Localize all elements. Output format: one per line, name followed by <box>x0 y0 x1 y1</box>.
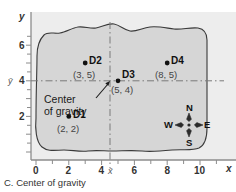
y-tick-label-4: 4 <box>19 76 25 86</box>
y-axis-ticks <box>26 36 31 152</box>
y-tick-label-6: 6 <box>19 41 25 51</box>
data-label-d3-coord: (5, 4) <box>111 85 133 95</box>
data-label-d2-name: D2 <box>89 56 102 66</box>
data-point-d2 <box>83 61 88 66</box>
data-label-d4-coord: (8, 5) <box>155 70 177 80</box>
figure-caption: C. Center of gravity <box>4 178 86 188</box>
compass-west-label: W <box>164 120 173 130</box>
data-label-d4-name: D4 <box>171 56 184 66</box>
y-bar-label: ȳ <box>8 77 13 86</box>
y-tick-label-2: 2 <box>19 112 25 122</box>
compass-south-label: S <box>186 138 192 148</box>
x-tick-label-2: 2 <box>66 166 72 176</box>
x-bar-label: x̄ <box>108 167 113 176</box>
x-tick-label-6: 6 <box>132 166 138 176</box>
data-point-d4 <box>165 61 170 66</box>
center-of-gravity-label-line2: of gravity <box>44 105 87 117</box>
x-axis-label: x <box>226 164 232 174</box>
x-tick-label-4: 4 <box>99 166 105 176</box>
y-axis-label: y <box>19 12 25 22</box>
data-label-d2-coord: (3, 5) <box>73 70 95 80</box>
compass-north-label: N <box>186 103 193 113</box>
data-label-d3-name: D3 <box>122 70 135 80</box>
x-tick-label-0: 0 <box>33 166 39 176</box>
compass-east-label: E <box>204 120 210 130</box>
x-tick-label-8: 8 <box>165 166 171 176</box>
x-axis-ticks <box>36 160 216 165</box>
center-of-gravity-figure: y x 2 4 6 ȳ 0 2 4 6 8 10 x̄ D1 (2, 2) D… <box>0 0 236 192</box>
data-label-d1-coord: (2, 2) <box>57 124 79 134</box>
center-of-gravity-label-line1: Center <box>44 93 76 105</box>
x-tick-label-10: 10 <box>194 166 205 176</box>
figure-graphics <box>0 0 236 192</box>
data-point-d3 <box>116 78 121 83</box>
